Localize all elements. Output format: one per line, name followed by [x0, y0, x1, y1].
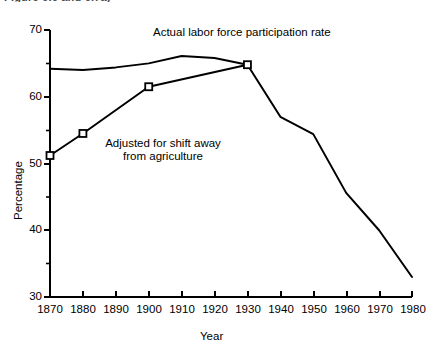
plot-area	[0, 0, 433, 350]
data-point-marker	[145, 83, 152, 90]
data-point-marker	[47, 152, 54, 159]
axis-lines	[50, 30, 412, 297]
data-point-marker	[79, 130, 86, 137]
figure-panel: Figure 6.6 and 6.7a) 70 60 50 40 30 Perc…	[0, 0, 433, 350]
series-line-actual	[50, 56, 412, 277]
series-line-adjusted	[50, 65, 247, 156]
series-markers-adjusted	[47, 61, 251, 159]
data-point-marker	[244, 61, 251, 68]
